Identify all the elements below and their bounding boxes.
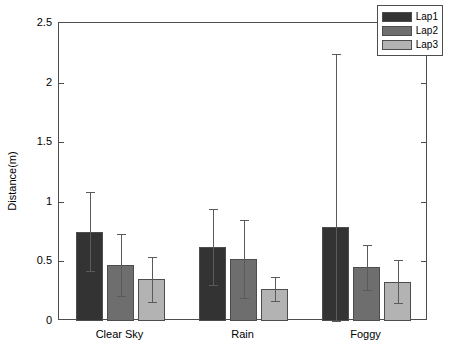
legend-swatch: [382, 26, 412, 36]
error-bar-line: [121, 234, 122, 296]
error-bar-cap-upper: [332, 54, 341, 55]
legend-label: Lap2: [416, 26, 438, 36]
y-axis-tick-mark: [421, 202, 426, 203]
legend-swatch: [382, 12, 412, 22]
plot-area: [58, 22, 427, 320]
error-bar-cap-upper: [240, 220, 249, 221]
x-axis-category-label: Foggy: [350, 328, 381, 340]
error-bar-cap-lower: [209, 285, 218, 286]
x-axis-category-label: Rain: [231, 328, 254, 340]
y-axis-tick-label: 0: [6, 314, 52, 326]
legend-label: Lap3: [416, 40, 438, 50]
error-bar-line: [275, 277, 276, 301]
legend-item-lap2: Lap2: [382, 24, 438, 37]
legend-item-lap3: Lap3: [382, 38, 438, 51]
y-axis-tick-label: 2: [6, 76, 52, 88]
error-bar-line: [90, 192, 91, 271]
figure-canvas: Distance(m) 00.511.522.5 Clear SkyRainFo…: [0, 0, 449, 361]
error-bar-line: [244, 220, 245, 299]
y-axis-tick-label: 2.5: [6, 16, 52, 28]
error-bar-line: [213, 209, 214, 285]
y-axis-tick-mark: [59, 261, 64, 262]
error-bar-cap-lower: [148, 302, 157, 303]
error-bar-cap-upper: [363, 245, 372, 246]
y-axis-tick-mark: [59, 83, 64, 84]
legend-label: Lap1: [416, 12, 438, 22]
x-axis-category-label: Clear Sky: [96, 328, 144, 340]
error-bar-line: [367, 245, 368, 290]
error-bar-cap-lower: [363, 290, 372, 291]
y-axis-tick-label: 1.5: [6, 135, 52, 147]
error-bar-cap-lower: [240, 298, 249, 299]
error-bar-line: [152, 257, 153, 302]
error-bar-cap-lower: [271, 301, 280, 302]
error-bar-cap-upper: [148, 257, 157, 258]
y-axis-tick-mark: [421, 142, 426, 143]
error-bar-cap-lower: [86, 271, 95, 272]
y-axis-tick-label: 0.5: [6, 254, 52, 266]
legend-swatch: [382, 40, 412, 50]
y-axis-label-text: Distance(m): [6, 151, 18, 210]
error-bar-cap-lower: [117, 296, 126, 297]
error-bar-line: [398, 260, 399, 303]
error-bar-cap-upper: [117, 234, 126, 235]
legend: Lap1Lap2Lap3: [377, 5, 443, 56]
error-bar-line: [336, 54, 337, 321]
y-axis-tick-mark: [421, 261, 426, 262]
y-axis-tick-label: 1: [6, 195, 52, 207]
legend-item-lap1: Lap1: [382, 10, 438, 23]
error-bar-cap-lower: [332, 321, 341, 322]
y-axis-tick-mark: [59, 142, 64, 143]
y-axis-label: Distance(m): [4, 0, 20, 361]
y-axis-tick-mark: [59, 202, 64, 203]
error-bar-cap-lower: [394, 303, 403, 304]
error-bar-cap-upper: [86, 192, 95, 193]
error-bar-cap-upper: [209, 209, 218, 210]
y-axis-tick-mark: [421, 83, 426, 84]
error-bar-cap-upper: [271, 277, 280, 278]
error-bar-cap-upper: [394, 260, 403, 261]
